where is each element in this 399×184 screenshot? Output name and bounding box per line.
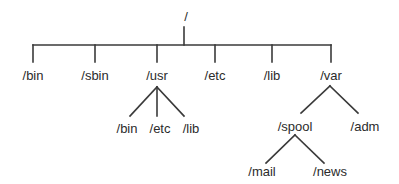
edge-usr-lib (157, 87, 184, 116)
node-usr-lib: /lib (183, 121, 200, 136)
node-etc: /etc (205, 68, 226, 83)
node-lib: /lib (264, 68, 281, 83)
directory-tree-diagram: / /bin /sbin /usr /etc /lib /var /bin /e… (0, 0, 399, 184)
node-var-spool: /spool (278, 119, 313, 134)
node-var-adm: /adm (351, 119, 380, 134)
edge-usr-bin (130, 87, 157, 116)
node-root: / (184, 9, 188, 24)
edges (33, 27, 358, 163)
node-usr: /usr (146, 68, 168, 83)
node-usr-etc: /etc (150, 121, 171, 136)
edge-spool-mail (266, 135, 295, 163)
node-usr-bin: /bin (117, 121, 138, 136)
node-spool-mail: /mail (248, 164, 276, 179)
node-sbin: /sbin (81, 68, 108, 83)
node-var: /var (320, 68, 342, 83)
edge-spool-news (295, 135, 324, 163)
node-bin: /bin (23, 68, 44, 83)
edge-var-adm (330, 86, 358, 113)
edge-var-spool (301, 86, 330, 113)
nodes: / /bin /sbin /usr /etc /lib /var /bin /e… (23, 9, 380, 179)
node-spool-news: /news (313, 164, 347, 179)
